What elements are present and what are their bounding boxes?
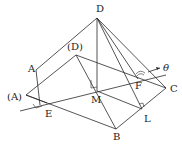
label-D-orig: (D) <box>67 41 83 52</box>
edge-D-L <box>97 18 142 109</box>
edge-Aorig-E <box>26 95 47 103</box>
label-theta: θ <box>163 62 169 73</box>
label-M: M <box>91 94 101 105</box>
geometry-diagram: D (D) A (A) E M F C B L θ <box>0 0 182 145</box>
label-F: F <box>135 80 142 91</box>
label-A: A <box>27 63 36 74</box>
theta-arc-inner <box>137 74 144 76</box>
label-A-orig: (A) <box>7 91 22 102</box>
label-L: L <box>144 113 151 124</box>
label-E: E <box>45 108 52 119</box>
edge-Dorig-C <box>76 55 166 88</box>
label-D: D <box>96 3 104 14</box>
edge-Dorig-B <box>76 55 116 129</box>
label-B: B <box>113 131 120 142</box>
edge-Dorig-Aorig <box>26 55 76 95</box>
label-C: C <box>170 83 178 94</box>
